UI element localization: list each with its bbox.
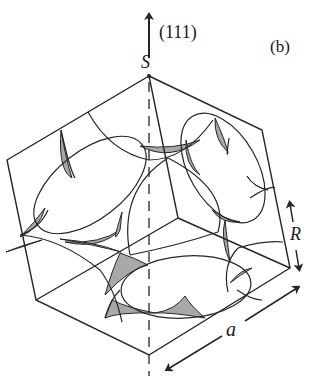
sphere-sections	[17, 99, 283, 322]
radius-label: R	[290, 224, 301, 245]
panel-label: (b)	[270, 37, 290, 57]
edge-length-label: a	[226, 318, 236, 341]
shaded-interstices	[6, 118, 270, 318]
direction-label: (111)	[159, 22, 197, 43]
vertex-label-s: S	[141, 52, 150, 73]
cube-diagram	[0, 0, 310, 376]
